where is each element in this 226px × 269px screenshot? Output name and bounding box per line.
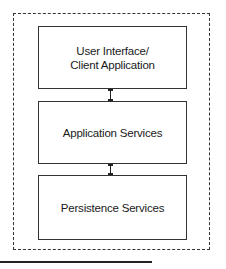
layer-user-interface: User Interface/ Client Application — [38, 26, 187, 89]
layer-label: Persistence Services — [61, 201, 164, 215]
horizontal-rule — [0, 261, 152, 263]
layer-label: User Interface/ Client Application — [70, 44, 155, 72]
layer-application-services: Application Services — [38, 101, 187, 164]
layer-persistence-services: Persistence Services — [38, 175, 187, 240]
layer-label: Application Services — [63, 126, 163, 140]
connector-ui-to-app-services — [110, 89, 111, 101]
connector-app-services-to-persistence — [110, 164, 111, 175]
